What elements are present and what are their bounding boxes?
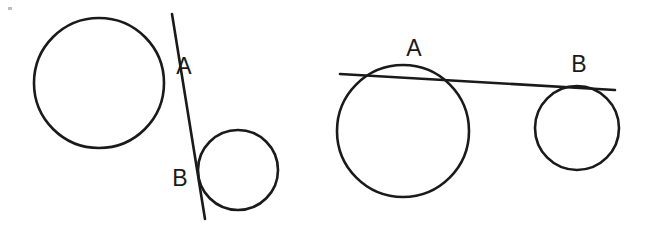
small-circle	[535, 86, 619, 170]
internal-tangent-diagram: A B	[34, 14, 278, 219]
tangent-point-a-label: A	[176, 53, 192, 79]
geometry-figure: A B A B	[0, 0, 648, 230]
small-circle	[198, 130, 278, 210]
figure-canvas: A B A B	[0, 0, 648, 230]
tangent-point-a-label: A	[406, 35, 422, 61]
tangent-point-b-label: B	[172, 165, 187, 191]
tangent-point-b-label: B	[571, 51, 586, 77]
large-circle	[34, 18, 164, 148]
large-circle	[337, 65, 469, 197]
scan-speck	[8, 7, 12, 10]
external-tangent-diagram: A B	[337, 35, 619, 197]
